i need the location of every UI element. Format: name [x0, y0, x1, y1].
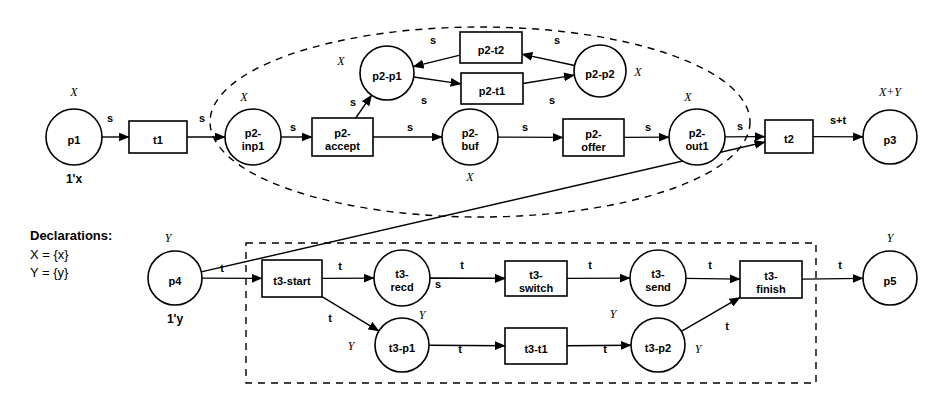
place-label-p2-out1: out1: [685, 140, 708, 152]
type-label-p4: Y: [165, 231, 173, 245]
arc-t3-finish-to-p5: [802, 278, 863, 279]
arc-label-t3-p2-t3-finish: t: [725, 320, 729, 332]
arc-label-p2-offer-p2-out1: s: [645, 121, 651, 133]
arc-t3-p2-to-t3-finish: [681, 297, 740, 331]
place-label-t3-recd: t3-: [395, 268, 409, 280]
type-label-t3-send: Y: [610, 307, 618, 321]
arc-label-t3-switch-t3-send: t: [588, 259, 592, 271]
arc-label-t3-start-t3-p1: t: [328, 312, 332, 324]
transition-label-p2-accept: accept: [325, 140, 360, 152]
arc-p2-t2-to-p2-p1: [413, 55, 460, 66]
transition-label-p2-offer: p2-: [585, 128, 602, 140]
arc-label-p2-buf-p2-offer: s: [522, 121, 528, 133]
arc-label-p2-accept-p2-buf: s: [407, 121, 413, 133]
arc-label-p2-inp1-p2-accept: s: [290, 121, 296, 133]
arc-label-t3-p1-t3-t1: t: [458, 343, 462, 355]
arc-label-p1-t1: s: [107, 112, 113, 124]
transition-label-p2-offer: offer: [581, 141, 606, 153]
declaration-line-y: Y = {y}: [30, 265, 69, 280]
transition-label-t1: t1: [153, 134, 163, 146]
transition-label-t3-finish: finish: [756, 283, 786, 295]
type-label-t3-p2: Y: [695, 342, 703, 356]
place-label-t3-send: send: [645, 281, 671, 293]
type-label-p2-p1: X: [336, 54, 345, 68]
transition-label-t3-switch: t3-: [529, 269, 543, 281]
arc-label-p2-p2-p2-t2: s: [554, 34, 560, 46]
declarations-block: Declarations: X = {x} Y = {y}: [30, 228, 112, 280]
place-label-p2-inp1: p2-: [245, 127, 262, 139]
type-label-p2-inp1: X: [239, 90, 248, 104]
arc-p2-p2-to-p2-t2: [522, 54, 575, 65]
arc-label-p2-t2-p2-p1: s: [430, 34, 436, 46]
transition-label-p2-t2: p2-t2: [478, 44, 504, 56]
arc-p2-accept-to-p2-p1: [356, 95, 372, 118]
arc-label-p2-out1-t2: s: [737, 120, 743, 132]
arc-label-p2-t1-p2-p2: s: [549, 94, 555, 106]
place-label-p5: p5: [884, 275, 897, 287]
petri-net-diagram: sssssssssssss+tttttsttttttp1X1'xp2-inp1X…: [0, 0, 951, 410]
place-label-p2-p2: p2-p2: [585, 68, 614, 80]
transition-label-t3-finish: t3-: [764, 270, 778, 282]
arc-p2-t1-to-p2-p2: [523, 75, 574, 83]
transition-label-t3-t1: t3-t1: [524, 343, 547, 355]
arc-label-p4-t3-start: t: [220, 262, 224, 274]
transition-label-p2-accept: p2-: [334, 127, 351, 139]
arc-label-t3-recd-t3-switch: s: [435, 278, 441, 290]
place-label-t3-p1: t3-p1: [389, 342, 415, 354]
transition-label-t3-switch: switch: [519, 282, 554, 294]
place-label-t3-p2: t3-p2: [645, 342, 671, 354]
arc-label-p2-accept-p2-p1: s: [350, 96, 356, 108]
type-label-p2-buf: X: [465, 170, 474, 184]
type-label-p3: X+Y: [878, 85, 902, 99]
place-label-p4: p4: [169, 275, 183, 287]
place-label-p2-p1: p2-p1: [372, 70, 401, 82]
place-label-p2-buf: buf: [461, 140, 478, 152]
place-label-p1: p1: [68, 134, 81, 146]
arc-label-t3-start-t3-recd: t: [338, 260, 342, 272]
arc-t3-send-to-t3-finish: [686, 278, 740, 279]
place-label-p2-inp1: inp1: [242, 140, 265, 152]
place-label-t3-send: t3-: [651, 268, 665, 280]
arc-t3-t1-to-t3-p2: [567, 345, 631, 346]
arc-label-t2-p3: s+t: [830, 114, 847, 126]
arc-label-t3-send-t3-finish: t: [708, 259, 712, 271]
arc-label-p2-p1-p2-t1: s: [421, 94, 427, 106]
type-label-p1: X: [69, 85, 78, 99]
type-label-p2-p2: X: [633, 65, 642, 79]
initial-marking-p1: 1'x: [66, 172, 83, 186]
type-label-p2-out1: X: [683, 90, 692, 104]
transition-label-t3-start: t3-start: [273, 275, 311, 287]
arc-label-t3-recd-t3-switch: t: [460, 259, 464, 271]
transition-label-p2-t1: p2-t1: [479, 85, 505, 97]
type-label-p5: Y: [887, 231, 895, 245]
arc-label-t1-p2-inp1: s: [199, 112, 205, 124]
place-label-p2-buf: p2-: [462, 127, 479, 139]
type-label-t3-p1: Y: [348, 339, 356, 353]
declarations-heading: Declarations:: [30, 228, 112, 243]
arc-p2-p1-to-p2-t1: [414, 77, 461, 84]
arc-label-t3-finish-p5: t: [838, 259, 842, 271]
place-label-p3: p3: [884, 134, 897, 146]
arc-label-t3-t1-t3-p2: t: [603, 343, 607, 355]
arc-t3-p1-to-t3-t1: [429, 345, 505, 346]
place-label-t3-recd: recd: [390, 281, 413, 293]
place-label-p2-out1: p2-: [689, 127, 706, 139]
type-label-t3-recd: Y: [419, 308, 427, 322]
transition-label-t2: t2: [784, 133, 794, 145]
net-canvas: sssssssssssss+tttttsttttttp1X1'xp2-inp1X…: [0, 0, 951, 410]
initial-marking-p4: 1'y: [167, 312, 184, 326]
declaration-line-x: X = {x}: [30, 247, 69, 262]
